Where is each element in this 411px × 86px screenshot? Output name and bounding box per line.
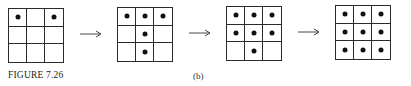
grid-step-2 [117,7,173,62]
dot-icon [142,31,147,36]
grid-cell [45,44,63,62]
dot-icon [251,13,256,18]
grid-cell [45,9,63,27]
grid-cell [263,25,281,43]
subfigure-label: (b) [193,71,204,81]
grid-step-3 [226,6,282,61]
right-arrow-icon [298,28,320,36]
grid-step-4 [335,5,391,60]
grid-cell [154,26,172,44]
grid-cell [245,7,263,25]
grid-cell [245,25,263,43]
dot-icon [270,30,275,35]
dot-icon [379,48,384,53]
grid-cell [9,44,27,62]
dot-icon [161,14,166,19]
dot-icon [52,15,57,20]
grid-cell [372,24,390,42]
figure-caption: FIGURE 7.26 [8,70,64,80]
dot-icon [142,14,147,19]
dot-icon [360,12,365,17]
dot-icon [270,13,275,18]
grid-cell [118,8,136,26]
dot-icon [251,30,256,35]
grid-cell [336,41,354,59]
dot-icon [360,29,365,34]
grid-cell [227,42,245,60]
grid-cell [354,41,372,59]
grid-cell [136,8,154,26]
grid-step-1 [8,8,64,63]
dot-icon [360,48,365,53]
dot-icon [379,12,384,17]
grid-cell [9,9,27,27]
grid-cell [245,42,263,60]
grid-cell [154,8,172,26]
dot-icon [379,29,384,34]
grid-cell [45,27,63,45]
grid-cell [27,9,45,27]
dot-icon [233,30,238,35]
grid-cell [263,42,281,60]
right-arrow-icon [189,29,211,37]
grid-cell [354,6,372,24]
grid-cell [372,6,390,24]
grid-cell [136,26,154,44]
dot-icon [124,14,129,19]
grid-cell [27,44,45,62]
dot-icon [342,12,347,17]
grid-cell [118,26,136,44]
grid-cell [118,43,136,61]
grid-cell [227,25,245,43]
grid-cell [336,24,354,42]
dot-icon [251,49,256,54]
grid-cell [136,43,154,61]
dot-icon [342,48,347,53]
dot-icon [15,15,20,20]
grid-cell [227,7,245,25]
grid-cell [263,7,281,25]
grid-cell [27,27,45,45]
dot-icon [342,29,347,34]
right-arrow-icon [80,30,102,38]
dot-icon [142,50,147,55]
grid-cell [154,43,172,61]
dot-icon [233,13,238,18]
grid-cell [336,6,354,24]
grid-cell [354,24,372,42]
grid-cell [9,27,27,45]
grid-cell [372,41,390,59]
